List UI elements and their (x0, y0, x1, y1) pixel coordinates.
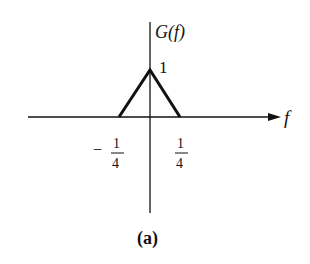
pos-tick-numerator: 1 (177, 136, 184, 151)
y-axis-label: G(f) (155, 22, 185, 43)
neg-tick-sign: − (93, 141, 102, 158)
neg-tick-numerator: 1 (113, 136, 120, 151)
f-axis-arrow-icon (268, 113, 281, 121)
peak-label: 1 (159, 58, 168, 77)
neg-tick-denominator: 4 (112, 156, 119, 171)
x-axis-label: f (284, 107, 292, 128)
pos-tick-denominator: 4 (176, 156, 183, 171)
figure-caption: (a) (137, 228, 158, 249)
triangle-spectrum-diagram: G(f) 1 f − 1 4 1 4 (a) (0, 0, 310, 264)
